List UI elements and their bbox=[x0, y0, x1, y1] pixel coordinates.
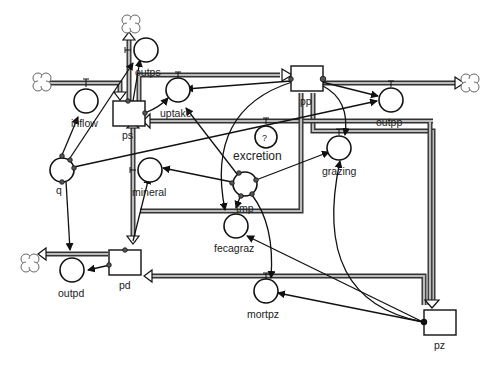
flow-valve-icon[interactable] bbox=[138, 158, 162, 182]
flow-label: grazing bbox=[322, 165, 357, 177]
stock-flow-diagram: ps pp pd pz inflow outps uptake outpp ? … bbox=[0, 0, 499, 367]
stock-box-icon[interactable] bbox=[291, 66, 323, 91]
flow-valve-icon[interactable] bbox=[224, 214, 248, 238]
flow-valve-icon[interactable] bbox=[134, 38, 158, 62]
flow-inflow[interactable]: inflow bbox=[71, 79, 98, 129]
cloud-source-sink-icon bbox=[21, 15, 479, 272]
converter-label: tmp bbox=[236, 202, 254, 214]
flow-excretion[interactable]: ? excretion bbox=[233, 118, 282, 163]
flow-outpp[interactable]: outpp bbox=[376, 81, 403, 128]
stock-box-icon[interactable] bbox=[424, 310, 456, 335]
flow-label: fecagraz bbox=[214, 242, 254, 254]
flow-valve-icon[interactable] bbox=[74, 89, 98, 113]
flow-uptake[interactable]: uptake bbox=[160, 72, 192, 119]
flow-label: uptake bbox=[160, 107, 192, 119]
cloud-sink-icon bbox=[21, 254, 39, 272]
flow-fecagraz[interactable]: fecagraz bbox=[214, 214, 254, 254]
flow-valve-icon[interactable] bbox=[254, 279, 278, 303]
cloud-sink-icon bbox=[122, 15, 140, 33]
stock-pp[interactable]: pp bbox=[291, 66, 323, 107]
flow-valve-icon[interactable] bbox=[327, 136, 351, 160]
flow-label: excretion bbox=[233, 149, 282, 163]
stock-pd[interactable]: pd bbox=[109, 250, 141, 291]
cloud-source-icon bbox=[33, 73, 51, 91]
stock-label: pd bbox=[119, 279, 131, 291]
stock-label: pp bbox=[300, 95, 312, 107]
flow-valve-icon[interactable] bbox=[60, 258, 84, 282]
flow-outpd[interactable]: outpd bbox=[58, 258, 84, 299]
cloud-sink-icon bbox=[461, 74, 479, 92]
flow-label: outps bbox=[135, 66, 161, 78]
flow-label: mortpz bbox=[247, 308, 279, 320]
stock-label: ps bbox=[122, 129, 133, 141]
converter-label: q bbox=[56, 184, 62, 196]
flow-valve-icon[interactable] bbox=[166, 78, 190, 102]
stock-box-icon[interactable] bbox=[109, 250, 141, 275]
converter-q[interactable]: q bbox=[50, 158, 74, 196]
flow-label: outpp bbox=[376, 116, 402, 128]
stock-box-icon[interactable] bbox=[113, 101, 145, 126]
flow-valve-icon[interactable] bbox=[379, 88, 403, 112]
flow-label: mineral bbox=[132, 186, 166, 198]
unknown-marker: ? bbox=[262, 133, 267, 143]
stock-ps[interactable]: ps bbox=[113, 101, 145, 141]
stock-label: pz bbox=[434, 339, 445, 351]
flow-mortpz[interactable]: mortpz bbox=[247, 273, 279, 320]
flow-label: inflow bbox=[71, 117, 98, 129]
flow-label: outpd bbox=[58, 287, 84, 299]
stock-pz[interactable]: pz bbox=[424, 310, 456, 351]
